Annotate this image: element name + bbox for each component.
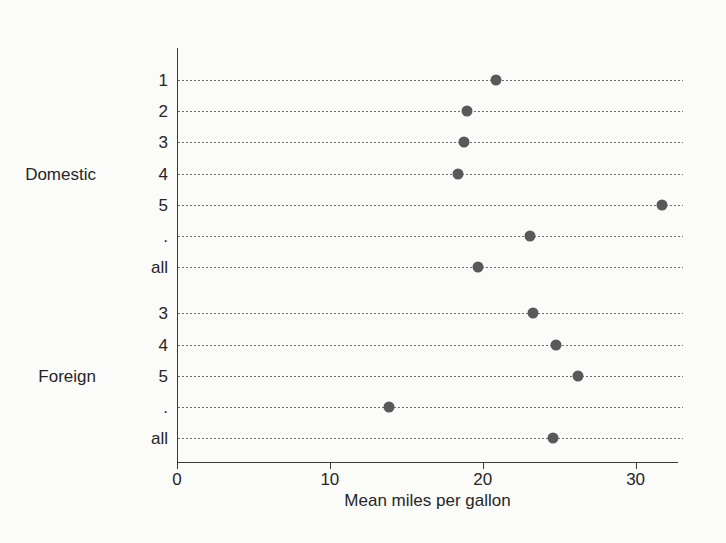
data-point (528, 308, 539, 319)
y-tick-label: . (163, 228, 168, 245)
plot-area (177, 48, 683, 462)
data-point (551, 339, 562, 350)
data-point (384, 402, 395, 413)
x-tick-mark (483, 462, 484, 469)
x-tick-label: 0 (172, 471, 181, 488)
y-tick-label: . (163, 399, 168, 416)
leader-line (177, 313, 683, 314)
leader-line (177, 205, 683, 206)
leader-line (177, 407, 683, 408)
data-point (491, 75, 502, 86)
data-point (525, 231, 536, 242)
group-label-column: DomesticForeign (0, 48, 96, 462)
y-tick-label: all (151, 259, 168, 276)
data-point (548, 433, 559, 444)
data-point (459, 137, 470, 148)
x-tick-mark (636, 462, 637, 469)
leader-line (177, 438, 683, 439)
leader-line (177, 174, 683, 175)
data-point (656, 199, 667, 210)
data-point (453, 168, 464, 179)
x-tick-mark (177, 462, 178, 469)
x-tick-label: 30 (626, 471, 645, 488)
leader-line (177, 345, 683, 346)
group-label-domestic: Domestic (25, 165, 96, 182)
leader-line (177, 267, 683, 268)
dot-plot-figure: DomesticForeign 12345.all345.all 0102030… (0, 0, 726, 543)
y-tick-label: 2 (159, 103, 168, 120)
y-tick-label-column: 12345.all345.all (100, 48, 168, 462)
data-point (572, 370, 583, 381)
y-tick-label: 5 (159, 367, 168, 384)
leader-line (177, 142, 683, 143)
y-tick-label: 4 (159, 336, 168, 353)
leader-line (177, 80, 683, 81)
group-label-foreign: Foreign (38, 367, 96, 384)
x-tick-label: 10 (320, 471, 339, 488)
x-tick-label: 20 (473, 471, 492, 488)
leader-line (177, 376, 683, 377)
y-tick-label: 1 (159, 72, 168, 89)
y-tick-label: 3 (159, 134, 168, 151)
y-tick-label: 3 (159, 305, 168, 322)
y-tick-label: all (151, 430, 168, 447)
leader-line (177, 236, 683, 237)
y-tick-label: 4 (159, 165, 168, 182)
data-point (473, 262, 484, 273)
x-tick-mark (330, 462, 331, 469)
leader-line (177, 111, 683, 112)
y-tick-label: 5 (159, 196, 168, 213)
data-point (462, 106, 473, 117)
x-axis-label: Mean miles per gallon (177, 492, 678, 509)
